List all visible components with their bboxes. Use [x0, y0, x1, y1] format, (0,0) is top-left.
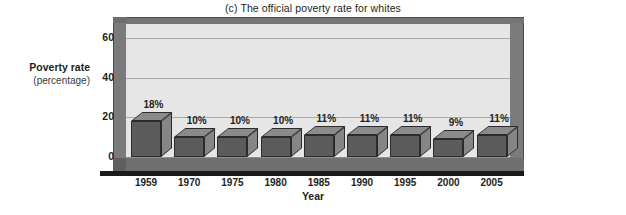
x-axis-title: Year [0, 190, 626, 202]
y-tick-label-60: 60 [84, 31, 114, 43]
bar-2000 [433, 130, 474, 157]
bar-side-face [161, 112, 172, 157]
x-tick-label-2000: 2000 [425, 177, 471, 188]
bar-front-face [433, 139, 463, 157]
bar-1959 [131, 112, 172, 157]
plot-left-wall [113, 23, 126, 171]
bar-front-face [131, 121, 161, 157]
bar-1985 [304, 126, 345, 157]
bar-value-label-1970: 10% [174, 115, 220, 126]
x-tick-label-1975: 1975 [209, 177, 255, 188]
bar-front-face [390, 135, 420, 157]
bar-1970 [174, 128, 215, 157]
y-tick-label-0: 0 [84, 150, 114, 162]
gridline-40 [126, 78, 510, 79]
bar-1975 [217, 128, 258, 157]
bar-front-face [217, 137, 247, 157]
bar-front-face [174, 137, 204, 157]
x-tick-label-1980: 1980 [253, 177, 299, 188]
bar-value-label-1975: 10% [217, 115, 263, 126]
bar-value-label-1990: 11% [347, 113, 393, 124]
x-tick-label-1985: 1985 [296, 177, 342, 188]
y-axis-title-main: Poverty rate [6, 61, 90, 74]
bar-value-label-1959: 18% [131, 99, 177, 110]
x-tick-label-1990: 1990 [339, 177, 385, 188]
bar-front-face [347, 135, 377, 157]
bar-value-label-2005: 11% [476, 113, 522, 124]
y-axis-title-units: (percentage) [6, 74, 90, 87]
bar-front-face [261, 137, 291, 157]
y-tick-label-20: 20 [84, 110, 114, 122]
y-axis-title: Poverty rate (percentage) [6, 61, 90, 87]
bar-value-label-1985: 11% [303, 113, 349, 124]
plot-floor-corner [113, 158, 126, 171]
bar-1990 [347, 126, 388, 157]
x-tick-label-2005: 2005 [469, 177, 515, 188]
chart-title: (c) The official poverty rate for whites [0, 2, 626, 14]
x-tick-label-1995: 1995 [382, 177, 428, 188]
x-tick-label-1970: 1970 [166, 177, 212, 188]
bar-front-face [304, 135, 334, 157]
bar-1980 [261, 128, 302, 157]
axis-zero-line [126, 157, 510, 158]
poverty-rate-chart-figure: (c) The official poverty rate for whites… [0, 0, 626, 215]
x-tick-label-1959: 1959 [123, 177, 169, 188]
bar-value-label-2000: 9% [433, 117, 479, 128]
plot-ceiling [126, 17, 524, 24]
gridline-60 [126, 38, 510, 39]
bar-front-face [477, 135, 507, 157]
bar-2005 [477, 126, 518, 157]
bar-1995 [390, 126, 431, 157]
bar-value-label-1995: 11% [390, 113, 436, 124]
bar-value-label-1980: 10% [260, 115, 306, 126]
plot-floor [113, 158, 524, 171]
plot-floor-front-edge [100, 171, 524, 176]
